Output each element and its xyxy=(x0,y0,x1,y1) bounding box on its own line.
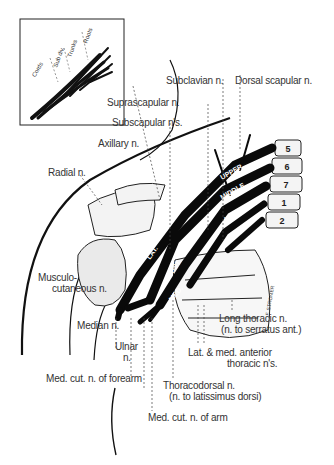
vertebra-c5: 5 xyxy=(285,144,290,154)
label-radial-nerve: Radial n. xyxy=(48,167,86,178)
label-subclavian-nerve: Subclavian n. xyxy=(166,75,223,86)
label-axillary-nerve: Axillary n. xyxy=(98,138,139,149)
label-thoracodorsal-nerve-line2: (n. to latissimus dorsi) xyxy=(169,391,261,402)
vertebra-c6: 6 xyxy=(284,162,289,172)
vertebra-c7: 7 xyxy=(283,180,288,190)
label-dorsal-scapular-nerve: Dorsal scapular n. xyxy=(235,75,312,86)
label-long-thoracic-nerve-line1: Long thoracic n. xyxy=(219,313,287,324)
label-thoracodorsal-nerve-line1: Thoracodorsal n. xyxy=(163,380,235,391)
label-subscapular-nerves: Subscapular n's. xyxy=(112,117,182,128)
label-median-nerve: Median n. xyxy=(77,320,119,331)
label-musculocutaneous-nerve-line2: cutaneous n. xyxy=(52,283,107,294)
brachial-plexus-illustration: 5 6 7 1 2 LAT. POST. MED. UPPER MIDDLE L… xyxy=(0,0,334,465)
label-long-thoracic-nerve-line2: (n. to serratus ant.) xyxy=(221,324,301,335)
label-med-cut-nerve-forearm: Med. cut. n. of forearm xyxy=(46,373,142,384)
label-anterior-thoracic-nerves-line1: Lat. & med. anterior xyxy=(188,347,272,358)
label-ulnar-nerve-line2: n. xyxy=(123,352,131,363)
label-suprascapular-nerve: Suprascapular n. xyxy=(107,97,179,108)
vertebra-t1: 1 xyxy=(281,198,286,208)
label-med-cut-nerve-arm: Med. cut. n. of arm xyxy=(148,412,228,423)
label-musculocutaneous-nerve-line1: Musculo- xyxy=(38,272,77,283)
label-ulnar-nerve-line1: Ulnar xyxy=(115,341,138,352)
label-anterior-thoracic-nerves-line2: thoracic n's. xyxy=(227,358,277,369)
vertebra-t2: 2 xyxy=(279,216,284,226)
